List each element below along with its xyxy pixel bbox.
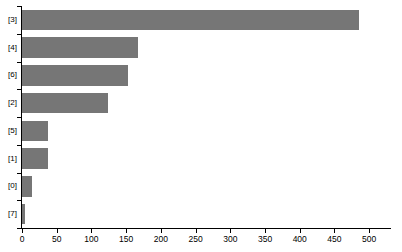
bar-row xyxy=(22,176,390,197)
y-axis-tick xyxy=(17,117,21,118)
x-axis-tick xyxy=(265,229,266,233)
x-axis-tick xyxy=(126,229,127,233)
x-axis-label: 100 xyxy=(84,235,98,244)
bar-row xyxy=(22,37,390,58)
bar-2 xyxy=(22,93,108,114)
y-axis-tick xyxy=(17,89,21,90)
x-axis-label: 450 xyxy=(327,235,341,244)
bar-5 xyxy=(22,121,48,142)
bar-row xyxy=(22,204,390,225)
y-axis-tick xyxy=(17,173,21,174)
x-axis-tick xyxy=(22,229,23,233)
x-axis-label: 0 xyxy=(20,235,25,244)
x-axis-label: 300 xyxy=(223,235,237,244)
x-axis-label: 200 xyxy=(154,235,168,244)
y-axis-label: [3] xyxy=(8,16,17,24)
bar-row xyxy=(22,121,390,142)
bar-1 xyxy=(22,148,48,169)
y-axis-tick xyxy=(17,62,21,63)
x-axis-label: 500 xyxy=(362,235,376,244)
y-axis-label: [6] xyxy=(8,71,17,79)
bar-row xyxy=(22,65,390,86)
y-axis-tick xyxy=(17,228,21,229)
x-axis-tick xyxy=(230,229,231,233)
x-axis-tick xyxy=(57,229,58,233)
x-axis-label: 350 xyxy=(258,235,272,244)
bar-6 xyxy=(22,65,128,86)
y-axis-label: [1] xyxy=(8,155,17,163)
bar-row xyxy=(22,10,390,31)
bar-row xyxy=(22,93,390,114)
y-axis-label: [7] xyxy=(8,210,17,218)
x-axis-tick xyxy=(300,229,301,233)
y-axis-tick xyxy=(17,6,21,7)
x-axis-tick xyxy=(369,229,370,233)
x-axis-label: 50 xyxy=(52,235,61,244)
y-axis-tick xyxy=(17,145,21,146)
y-axis-tick xyxy=(17,200,21,201)
bar-4 xyxy=(22,37,138,58)
y-axis-label: [0] xyxy=(8,182,17,190)
y-axis-label: [2] xyxy=(8,99,17,107)
bar-row xyxy=(22,148,390,169)
bar-3 xyxy=(22,10,359,31)
x-axis-tick xyxy=(91,229,92,233)
x-axis-line xyxy=(21,228,391,229)
y-axis-label: [4] xyxy=(8,44,17,52)
bar-0 xyxy=(22,176,32,197)
x-axis-label: 150 xyxy=(119,235,133,244)
x-axis-label: 250 xyxy=(188,235,202,244)
bar-7 xyxy=(22,204,25,225)
x-axis-tick xyxy=(161,229,162,233)
x-axis-tick xyxy=(196,229,197,233)
y-axis-tick xyxy=(17,34,21,35)
plot-area xyxy=(22,6,390,228)
bar-chart: [3][4][6][2][5][1][0][7] 050100150200250… xyxy=(0,0,402,252)
y-axis-label: [5] xyxy=(8,127,17,135)
x-axis-label: 400 xyxy=(293,235,307,244)
x-axis-tick xyxy=(334,229,335,233)
